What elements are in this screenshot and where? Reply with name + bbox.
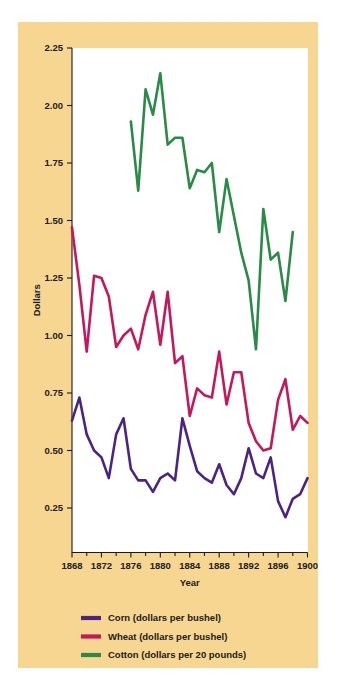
chart-legend: Corn (dollars per bushel)Wheat (dollars … (81, 612, 246, 660)
x-tick-label: 1892 (238, 560, 259, 571)
x-axis-title: Year (180, 577, 200, 588)
x-tick-label: 1872 (91, 560, 112, 571)
legend-label: Corn (dollars per bushel) (108, 612, 221, 623)
y-tick-label: 1.75 (45, 157, 64, 168)
line-chart: 0.250.500.751.001.251.501.752.002.251868… (0, 0, 338, 684)
series-line-wheat (72, 227, 308, 450)
y-axis-title: Dollars (31, 284, 42, 316)
y-tick-label: 1.00 (45, 330, 64, 341)
legend-label: Wheat (dollars per bushel) (108, 631, 227, 642)
x-tick-label: 1900 (297, 560, 318, 571)
y-tick-label: 2.25 (45, 42, 64, 53)
tick-label-group: 0.250.500.751.001.251.501.752.002.251868… (31, 42, 318, 587)
y-tick-label: 0.25 (45, 502, 64, 513)
x-tick-label: 1888 (209, 560, 230, 571)
x-tick-label: 1896 (267, 560, 288, 571)
data-series-group (72, 73, 308, 517)
legend-label: Cotton (dollars per 20 pounds) (108, 649, 246, 660)
y-tick-label: 0.50 (45, 445, 64, 456)
y-tick-label: 1.50 (45, 215, 64, 226)
y-tick-label: 2.00 (45, 100, 64, 111)
x-tick-label: 1884 (179, 560, 201, 571)
x-tick-label: 1868 (61, 560, 82, 571)
figure-root: 0.250.500.751.001.251.501.752.002.251868… (0, 0, 338, 684)
y-tick-label: 1.25 (45, 272, 64, 283)
x-tick-label: 1876 (120, 560, 141, 571)
y-tick-label: 0.75 (45, 387, 64, 398)
x-tick-label: 1880 (150, 560, 171, 571)
axes-group (67, 48, 308, 558)
